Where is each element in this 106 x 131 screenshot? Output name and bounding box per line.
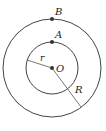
center-point — [50, 66, 54, 70]
label-r-outer: R — [74, 84, 83, 95]
concentric-circles-diagram: B A O r R — [0, 0, 106, 131]
point-b — [50, 17, 54, 21]
point-a — [50, 40, 54, 44]
label-a: A — [54, 29, 62, 40]
diagram-svg: B A O r R — [0, 0, 106, 131]
label-r-inner: r — [40, 53, 45, 63]
label-b: B — [54, 6, 62, 17]
label-o: O — [56, 63, 64, 74]
